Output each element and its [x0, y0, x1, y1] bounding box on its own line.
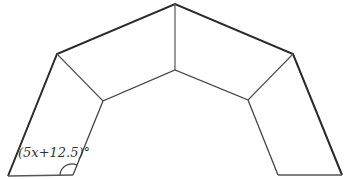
- angle-label: (5x+12.5)°: [18, 145, 90, 160]
- angle-arc: [60, 164, 77, 175]
- left-base: [8, 175, 73, 176]
- joint-left: [57, 54, 103, 101]
- inner-arch-edge: [73, 70, 278, 175]
- arch-diagram: (5x+12.5)°: [0, 0, 346, 179]
- joint-right: [248, 54, 293, 100]
